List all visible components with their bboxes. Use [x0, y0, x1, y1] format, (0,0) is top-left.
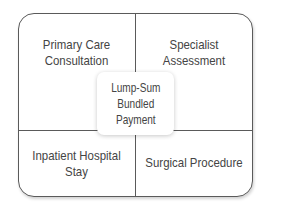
label-line: Bundled: [111, 96, 160, 112]
quadrant-specialist: Specialist Assessment: [143, 37, 245, 69]
label-line: Consultation: [25, 53, 128, 69]
label-line: Stay: [25, 164, 128, 180]
center-label: Lump-Sum Bundled Payment: [108, 80, 164, 128]
quadrant-surgical: Surgical Procedure: [143, 155, 245, 171]
label-line: Specialist: [143, 37, 245, 53]
center-payment-box: Lump-Sum Bundled Payment: [97, 72, 174, 135]
label-line: Primary Care: [25, 37, 128, 53]
label-line: Assessment: [143, 53, 245, 69]
quadrant-inpatient: Inpatient Hospital Stay: [25, 148, 128, 180]
label-line: Payment: [111, 112, 160, 128]
label-line: Lump-Sum: [111, 80, 160, 96]
label-line: Surgical Procedure: [143, 155, 245, 171]
label-line: Inpatient Hospital: [25, 148, 128, 164]
quadrant-primary-care: Primary Care Consultation: [25, 37, 128, 69]
